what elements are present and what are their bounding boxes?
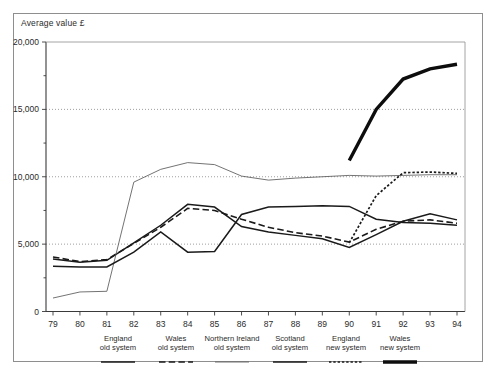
x-tick-labels-group: 79808182838485868788899091929394 — [48, 319, 462, 329]
y-tick-label: 0 — [34, 307, 39, 317]
data-series-line — [53, 206, 457, 267]
legend-label-region: Wales — [372, 334, 428, 343]
legend-swatch-solid-medium — [100, 357, 136, 367]
x-tick-label: 87 — [264, 319, 274, 329]
legend-swatch-dashed — [158, 357, 194, 367]
legend-swatch-dotted — [328, 357, 364, 367]
data-series-group — [53, 64, 457, 298]
x-tick-label: 85 — [210, 319, 220, 329]
legend-label-region: England — [318, 334, 374, 343]
legend-label-system: old system — [204, 343, 260, 352]
legend-label-system: new system — [372, 343, 428, 352]
legend-item[interactable]: Scotlandold system — [262, 334, 318, 367]
data-series-line — [53, 204, 457, 262]
y-tick-labels-group: 05,00010,00015,00020,000 — [13, 37, 39, 317]
x-tick-label: 86 — [237, 319, 247, 329]
y-tick-label: 10,000 — [13, 172, 39, 182]
x-tick-label: 90 — [345, 319, 355, 329]
gridlines-group — [46, 109, 465, 244]
legend-item[interactable]: Walesnew system — [372, 334, 428, 367]
y-tick-label: 20,000 — [13, 37, 39, 47]
legend-label-system: old system — [90, 343, 146, 352]
legend-swatch-solid-thin — [214, 357, 250, 367]
legend-label-system: old system — [262, 343, 318, 352]
x-tick-label: 93 — [425, 319, 435, 329]
x-tick-label: 80 — [75, 319, 85, 329]
x-tick-label: 82 — [129, 319, 139, 329]
x-tick-label: 94 — [452, 319, 462, 329]
data-series-line — [349, 64, 457, 160]
legend-label-region: Scotland — [262, 334, 318, 343]
x-tick-label: 81 — [102, 319, 112, 329]
x-tick-label: 84 — [183, 319, 193, 329]
legend-item[interactable]: Englandold system — [90, 334, 146, 367]
legend-label-region: Northern Ireland — [204, 334, 260, 343]
legend-swatch-solid-medium — [272, 357, 308, 367]
x-tick-label: 89 — [318, 319, 328, 329]
x-tick-label: 88 — [291, 319, 301, 329]
legend-item[interactable]: Englandnew system — [318, 334, 374, 367]
x-tick-label: 83 — [156, 319, 166, 329]
x-tick-label: 79 — [48, 319, 58, 329]
legend-item[interactable]: Northern Irelandold system — [204, 334, 260, 367]
x-tick-label: 92 — [398, 319, 408, 329]
y-tick-label: 15,000 — [13, 104, 39, 114]
legend-label-region: Wales — [148, 334, 204, 343]
legend-item[interactable]: Walesold system — [148, 334, 204, 367]
data-series-line — [53, 208, 457, 261]
data-series-line — [349, 172, 457, 243]
figure-container: Average value £ 05,00010,00015,00020,000… — [0, 0, 498, 378]
legend-label-system: new system — [318, 343, 374, 352]
x-tick-label: 91 — [371, 319, 381, 329]
data-series-line — [53, 163, 457, 298]
y-tick-label: 5,000 — [18, 239, 40, 249]
line-chart-plot: 05,00010,00015,00020,000 798081828384858… — [0, 0, 498, 378]
legend-swatch-solid-thick — [382, 357, 418, 367]
legend-label-system: old system — [148, 343, 204, 352]
legend-label-region: England — [90, 334, 146, 343]
